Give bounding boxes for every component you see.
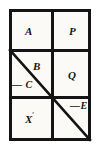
horizontal-divider-upper (9, 49, 91, 52)
cell-label-p: P (69, 26, 76, 37)
cell-label-q: Q (68, 70, 76, 81)
cell-label-x-prime: X′ (25, 112, 34, 125)
vertical-divider-main (51, 9, 54, 141)
grid-diagram-figure: A P B — C Q X′ —E (0, 0, 100, 147)
cell-label-minus-c: — C (12, 80, 33, 90)
horizontal-divider-lower-left (9, 96, 54, 99)
horizontal-divider-lower-right (51, 96, 91, 99)
prime-mark: ′ (32, 111, 34, 120)
figure-outer-frame (9, 9, 91, 141)
cell-label-a: A (25, 26, 32, 37)
cell-label-minus-e: —E (70, 101, 88, 111)
cell-label-b: B (33, 61, 40, 72)
